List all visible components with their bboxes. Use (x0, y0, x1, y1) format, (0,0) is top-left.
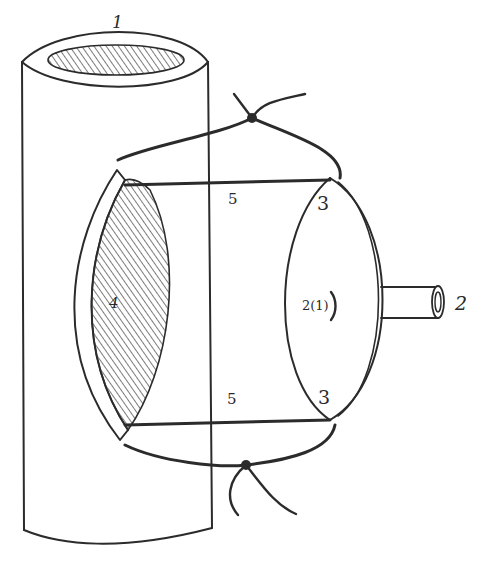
label-disc-suture-bottom: 3 (318, 386, 330, 408)
suture-bottom-straight (125, 420, 330, 425)
tube-end (432, 286, 444, 318)
label-suture-bottom: 5 (227, 390, 237, 408)
label-tube: 2 (454, 292, 467, 314)
vessel-lumen (48, 45, 184, 75)
opening-lumen (92, 179, 170, 430)
thread-top-left (234, 94, 252, 118)
label-suture-top: 5 (228, 190, 238, 208)
suture-bottom-loop (125, 425, 335, 466)
label-disc-suture-top: 3 (317, 192, 329, 214)
label-vessel: 1 (112, 12, 123, 32)
vessel-bottom-edge (24, 528, 212, 544)
label-disc: 2(1) (302, 298, 329, 313)
diagram-canvas: 1 5 3 5 3 2(1) 2 4 (0, 0, 490, 578)
opening (74, 170, 169, 440)
suture-top-straight (125, 180, 330, 185)
disc-rim-inner (338, 182, 379, 416)
disc-back-edge (330, 178, 383, 420)
thread-top-right (252, 94, 305, 118)
disc-center-mark (331, 292, 336, 320)
label-opening: 4 (108, 294, 119, 312)
thread-bottom-right (246, 465, 296, 514)
suture-top-loop (118, 118, 340, 178)
vessel-left-wall (22, 62, 24, 530)
thread-bottom-left (230, 465, 246, 515)
